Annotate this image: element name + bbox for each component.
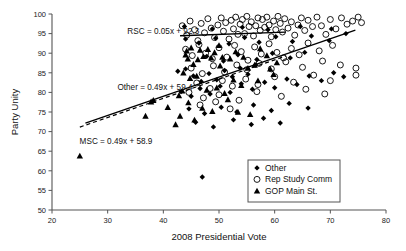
legend-label: GOP Main St. (265, 186, 317, 196)
y-tick-label: 55 (38, 186, 46, 195)
data-point (187, 18, 193, 24)
data-point (256, 40, 261, 45)
data-point (233, 14, 239, 20)
data-point (211, 124, 216, 129)
data-point (261, 116, 266, 121)
data-point (320, 58, 326, 64)
data-point (331, 70, 336, 75)
x-axis-title: 2008 Presidential Vote (171, 231, 266, 242)
data-point (290, 39, 295, 44)
data-point (353, 72, 359, 78)
data-point (245, 57, 251, 63)
data-point (142, 113, 148, 119)
data-point (275, 13, 281, 19)
data-point (206, 71, 211, 76)
data-point (213, 99, 219, 105)
data-point (189, 53, 195, 59)
data-point (185, 99, 191, 105)
data-point (355, 14, 361, 20)
data-point (330, 42, 336, 48)
data-point (222, 68, 227, 73)
data-point (186, 106, 191, 111)
data-point (255, 77, 261, 83)
data-point (262, 80, 267, 85)
y-tick-label: 60 (38, 167, 46, 176)
data-point (341, 74, 346, 79)
data-point (227, 106, 233, 112)
data-point (232, 42, 238, 48)
data-point (278, 93, 284, 99)
data-point (254, 57, 259, 62)
data-point (353, 65, 359, 71)
y-tick-label: 95 (38, 29, 46, 38)
data-point (302, 50, 307, 55)
y-tick-label: 100 (33, 10, 46, 19)
data-point (338, 15, 344, 21)
data-point (195, 56, 201, 62)
equation-annotation: RSC = 0.05x + 92.3 (127, 27, 199, 36)
data-point (288, 19, 294, 25)
data-point (199, 71, 205, 77)
data-point (318, 23, 324, 29)
legend-label: Rep Study Comm (265, 174, 332, 184)
x-tick-label: 70 (326, 216, 334, 225)
x-tick-label: 40 (159, 216, 167, 225)
data-point (247, 111, 253, 117)
data-point (220, 28, 226, 34)
data-point (165, 104, 171, 110)
equation-annotation: MSC = 0.49x + 58.9 (80, 137, 153, 146)
data-point (294, 82, 299, 87)
data-point (350, 18, 356, 24)
data-point (298, 15, 304, 21)
data-point (230, 26, 236, 32)
data-point (231, 117, 236, 122)
x-tick-label: 50 (215, 216, 223, 225)
data-point (217, 63, 223, 69)
y-tick-label: 80 (38, 88, 46, 97)
data-point (227, 90, 232, 95)
data-point (300, 64, 306, 70)
data-point (251, 102, 256, 107)
data-point (311, 72, 317, 78)
data-point (209, 108, 215, 114)
data-point (198, 20, 204, 26)
data-point (344, 21, 350, 27)
data-point (227, 55, 233, 61)
data-point (188, 45, 194, 51)
data-point (216, 92, 222, 98)
data-point (305, 17, 311, 23)
y-tick-label: 90 (38, 49, 46, 58)
data-point (244, 13, 250, 19)
data-point (292, 32, 298, 38)
data-point (221, 90, 227, 96)
data-point (177, 113, 183, 119)
data-point (249, 122, 254, 127)
data-point (327, 16, 333, 22)
data-point (205, 16, 211, 22)
data-point (296, 52, 302, 58)
data-point (310, 24, 316, 30)
data-point (197, 86, 202, 91)
data-point (282, 16, 288, 22)
data-point (272, 85, 277, 90)
y-tick-label: 50 (38, 206, 46, 215)
fit-line-other (85, 30, 355, 123)
data-point (305, 105, 310, 110)
chart-canvas: 5055606570758085909510020304050607080200… (0, 0, 406, 251)
y-axis-title: Party Unity (9, 89, 20, 136)
data-point (175, 69, 180, 74)
data-point (219, 105, 224, 110)
equation-annotation: Other = 0.49x + 59.4 (117, 83, 193, 92)
series-rep-study-comm (179, 13, 364, 112)
data-point (218, 15, 224, 21)
data-point (188, 94, 193, 99)
data-point (285, 25, 291, 31)
scatter-chart-figure: 5055606570758085909510020304050607080200… (0, 0, 406, 251)
data-point (319, 78, 324, 83)
data-point (253, 23, 259, 29)
data-point (204, 87, 210, 93)
data-point (288, 45, 294, 51)
data-point (215, 22, 221, 28)
data-point (277, 20, 283, 26)
data-point (302, 27, 308, 33)
